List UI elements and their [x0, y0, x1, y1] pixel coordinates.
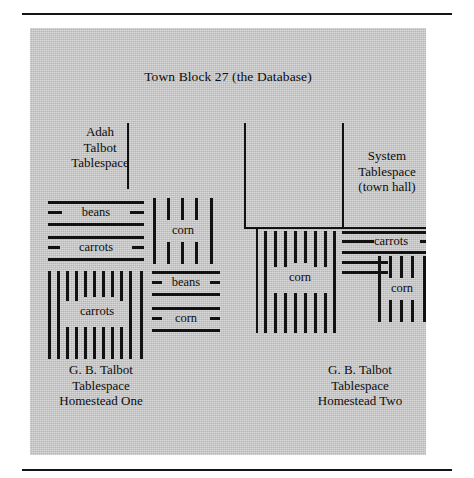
fence-system-left	[244, 123, 246, 229]
table-homestead-one-carrots: carrots	[48, 271, 146, 359]
table-adah-carrots: carrots	[48, 236, 144, 264]
table-adah-carrots-label: carrots	[48, 240, 144, 255]
label-homestead-one-line-2: Tablespace	[36, 378, 166, 394]
table-adah-corn: corn	[153, 198, 213, 264]
table-homestead-one-corn-label: corn	[152, 311, 220, 326]
table-adah-beans-label: beans	[48, 205, 144, 220]
label-adah-line-2: Talbot	[52, 140, 148, 156]
label-homestead-one-line-1: G. B. Talbot	[36, 362, 166, 378]
label-system-line-2: Tablespace	[348, 164, 426, 180]
fence-system-right	[342, 123, 344, 229]
figure-title: Town Block 27 (the Database)	[30, 69, 426, 85]
table-homestead-one-corn: corn	[152, 307, 220, 335]
label-adah-line-3: Tablespace	[52, 155, 148, 171]
label-homestead-one-line-3: Homestead One	[36, 393, 166, 409]
page-rule-bottom	[22, 469, 452, 471]
table-homestead-one-beans-label: beans	[152, 275, 220, 290]
page-rule-top	[22, 13, 452, 15]
figure-town-block-diagram: Town Block 27 (the Database) Adah Talbot…	[30, 28, 426, 455]
table-homestead-one-beans: beans	[152, 271, 220, 299]
table-homestead-two-corn-big-label: corn	[264, 270, 336, 285]
fence-system-bottom	[244, 227, 426, 229]
label-adah-talbot-tablespace: Adah Talbot Tablespace	[52, 124, 148, 171]
label-system-tablespace: System Tablespace (town hall)	[348, 148, 426, 195]
table-homestead-two-corn-big: corn	[264, 231, 336, 333]
table-adah-beans: beans	[48, 201, 144, 229]
label-system-line-1: System	[348, 148, 426, 164]
label-homestead-two-line-1: G. B. Talbot	[292, 362, 426, 378]
table-homestead-two-carrots-label: carrots	[356, 234, 426, 249]
table-homestead-two-corn-small-label: corn	[378, 281, 426, 296]
label-homestead-two-line-2: Tablespace	[292, 378, 426, 394]
fence-homestead-two-left	[256, 229, 258, 333]
table-adah-corn-label: corn	[153, 223, 213, 238]
label-system-line-3: (town hall)	[348, 179, 426, 195]
label-homestead-two: G. B. Talbot Tablespace Homestead Two	[292, 362, 426, 409]
table-homestead-one-carrots-label: carrots	[48, 304, 146, 319]
table-homestead-two-corn-small: corn	[378, 256, 426, 322]
fence-adah-right	[127, 123, 129, 189]
label-homestead-two-line-3: Homestead Two	[292, 393, 426, 409]
label-adah-line-1: Adah	[52, 124, 148, 140]
label-homestead-one: G. B. Talbot Tablespace Homestead One	[36, 362, 166, 409]
